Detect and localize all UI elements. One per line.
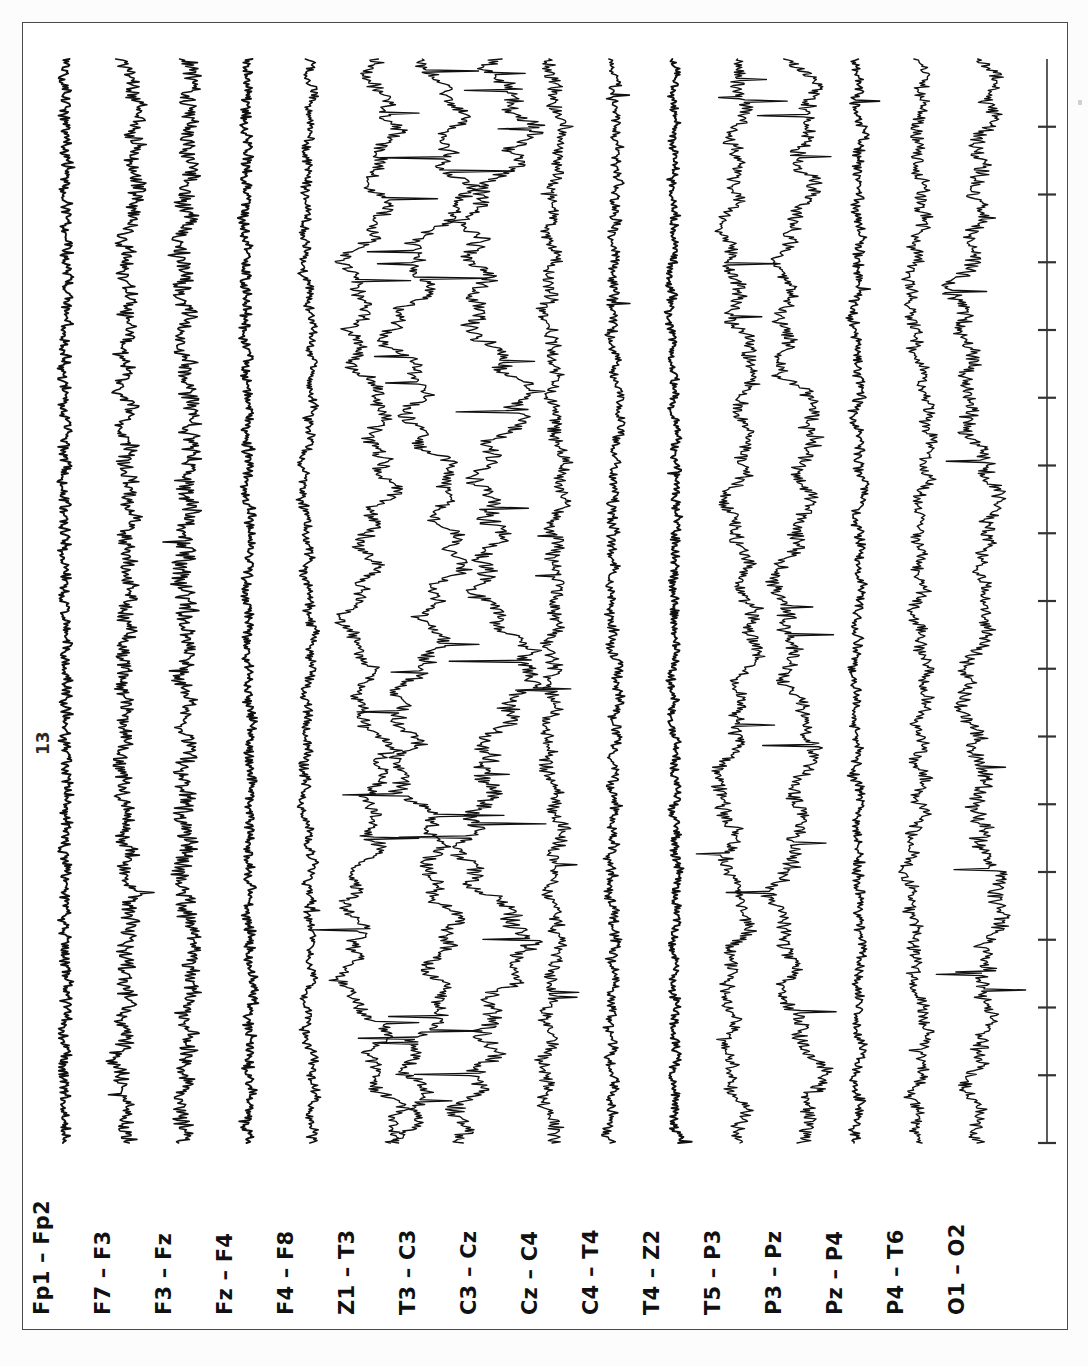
channel-label: C4 – T4 xyxy=(579,1230,603,1315)
eeg-trace xyxy=(696,59,787,1143)
eeg-trace xyxy=(846,59,879,1143)
channel-label: Fz – F4 xyxy=(213,1233,237,1315)
eeg-trace xyxy=(516,59,579,1143)
eeg-trace xyxy=(296,59,320,1143)
channel-label: Fp1 – Fp2 xyxy=(30,1200,54,1315)
channel-label: F3 – Fz xyxy=(152,1233,176,1315)
channel-label: Cz – C4 xyxy=(518,1231,542,1315)
eeg-trace xyxy=(602,59,630,1143)
channel-label: Pz – P4 xyxy=(823,1231,847,1315)
time-axis xyxy=(1038,59,1056,1143)
eeg-trace xyxy=(936,59,1025,1143)
eeg-traces xyxy=(23,23,1069,1331)
channel-label: F7 – F3 xyxy=(91,1231,115,1315)
scale-annotation: 13 xyxy=(33,731,53,755)
channel-label: Z1 – T3 xyxy=(335,1230,359,1315)
channel-label: P3 – Pz xyxy=(762,1231,786,1315)
eeg-plot-area xyxy=(23,23,1069,1331)
channel-label: O1 – O2 xyxy=(945,1224,969,1315)
eeg-trace xyxy=(163,59,202,1143)
eeg-trace xyxy=(57,59,74,1143)
channel-label: T5 – P3 xyxy=(701,1230,725,1315)
channel-label: F4 – F8 xyxy=(274,1231,298,1315)
eeg-trace xyxy=(665,59,692,1143)
eeg-trace xyxy=(899,59,937,1143)
eeg-trace xyxy=(311,59,437,1143)
eeg-trace xyxy=(238,59,258,1143)
channel-label: T3 – C3 xyxy=(396,1230,420,1315)
eeg-trace xyxy=(106,59,154,1143)
chart-frame-border: Fp1 – Fp2F7 – F3F3 – FzFz – F4F4 – F8Z1 … xyxy=(22,22,1068,1330)
channel-label: T4 – Z2 xyxy=(640,1230,664,1315)
channel-label: P4 – T6 xyxy=(884,1230,908,1315)
page-edge-speck xyxy=(1078,100,1082,105)
trace-group xyxy=(57,59,1025,1143)
eeg-trace xyxy=(399,59,571,1143)
channel-label: C3 – Cz xyxy=(457,1231,481,1315)
eeg-page: Fp1 – Fp2F7 – F3F3 – FzFz – F4F4 – F8Z1 … xyxy=(0,0,1088,1366)
